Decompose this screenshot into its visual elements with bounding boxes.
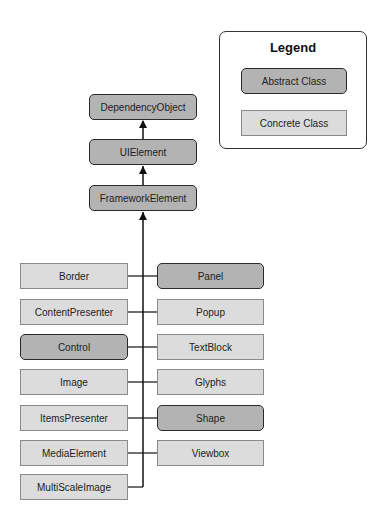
legend-concrete-class: Concrete Class	[241, 110, 347, 136]
legend-abstract-class: Abstract Class	[241, 68, 347, 94]
node-itemspresenter: ItemsPresenter	[20, 405, 128, 431]
node-frameworkelement: FrameworkElement	[89, 185, 197, 211]
legend: Legend Abstract Class Concrete Class	[219, 31, 367, 149]
arrowhead-icon	[139, 120, 147, 128]
node-viewbox: Viewbox	[157, 440, 264, 466]
node-uielement: UIElement	[89, 139, 197, 165]
node-control: Control	[20, 334, 128, 360]
node-border: Border	[20, 263, 128, 289]
legend-title: Legend	[220, 40, 366, 55]
node-popup: Popup	[157, 299, 264, 325]
arrowhead-icon	[139, 212, 147, 220]
arrowhead-icon	[139, 166, 147, 174]
node-contentpresenter: ContentPresenter	[20, 299, 128, 325]
node-shape: Shape	[157, 405, 264, 431]
node-dependencyobject: DependencyObject	[89, 94, 197, 120]
node-panel: Panel	[157, 263, 264, 289]
node-textblock: TextBlock	[157, 334, 264, 360]
node-image: Image	[20, 369, 128, 395]
node-multiscaleimage: MultiScaleImage	[20, 474, 128, 500]
node-mediaelement: MediaElement	[20, 440, 128, 466]
node-glyphs: Glyphs	[157, 369, 264, 395]
